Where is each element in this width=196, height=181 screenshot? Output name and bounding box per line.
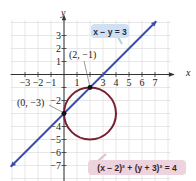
svg-text:1: 1 [56, 56, 61, 67]
callout-pointer [118, 37, 122, 44]
intersection-point [88, 85, 93, 90]
graph: −3−2−1134567321−2−4−5−6−7 (2, −1) (0, −3… [0, 0, 196, 181]
svg-text:3: 3 [56, 30, 61, 41]
x-axis-label: x [185, 67, 191, 78]
svg-text:3: 3 [101, 77, 106, 88]
line-curve [11, 21, 157, 167]
svg-text:−2: −2 [33, 77, 44, 88]
svg-text:5: 5 [127, 77, 132, 88]
svg-text:4: 4 [114, 77, 119, 88]
circle-equation: (x − 2)² + (y + 3)² = 4 [97, 163, 177, 173]
svg-text:−3: −3 [20, 77, 31, 88]
point-label: (2, −1) [69, 49, 96, 61]
svg-text:7: 7 [153, 77, 158, 88]
callout-pointer [98, 154, 106, 161]
svg-text:−6: −6 [50, 147, 61, 158]
svg-text:1: 1 [75, 77, 80, 88]
y-axis-label: y [60, 7, 66, 18]
svg-text:−2: −2 [50, 95, 61, 106]
svg-text:6: 6 [140, 77, 145, 88]
svg-text:−1: −1 [46, 77, 57, 88]
svg-text:−5: −5 [50, 134, 61, 145]
intersection-point [62, 111, 67, 116]
line-equation: x − y = 3 [93, 27, 127, 37]
svg-text:−7: −7 [50, 160, 61, 171]
svg-text:2: 2 [56, 43, 61, 54]
point-label: (0, −3) [17, 97, 44, 109]
